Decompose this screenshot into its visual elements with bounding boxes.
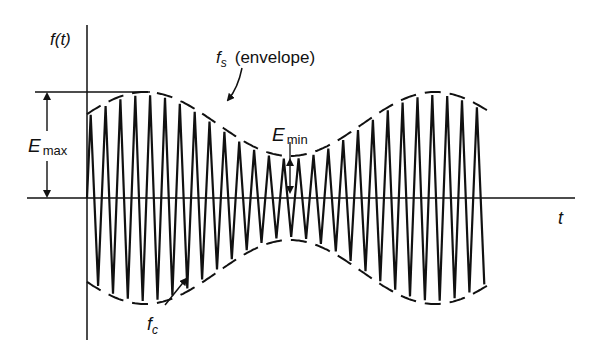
- carrier-subscript: c: [152, 323, 158, 337]
- carrier-pointer-arrow-icon: [165, 279, 186, 305]
- emin-label: Emin: [272, 124, 308, 147]
- emax-label: Emax: [28, 135, 68, 158]
- envelope-label: fs(envelope): [216, 48, 315, 70]
- emax-symbol: E: [28, 135, 41, 156]
- envelope-subscript: s: [221, 56, 227, 70]
- lower-envelope: [87, 240, 491, 304]
- envelope-pointer-arrow-icon: [228, 68, 242, 100]
- x-axis-label: t: [558, 208, 564, 228]
- am-wave-diagram: f(t) t fs(envelope) Emax Emin fc: [0, 0, 594, 354]
- emax-subscript: max: [43, 143, 68, 158]
- emin-subscript: min: [287, 132, 308, 147]
- emin-symbol: E: [272, 124, 285, 145]
- y-axis-label: f(t): [50, 30, 71, 49]
- envelope-text: (envelope): [235, 48, 315, 67]
- carrier-label: fc: [147, 314, 158, 337]
